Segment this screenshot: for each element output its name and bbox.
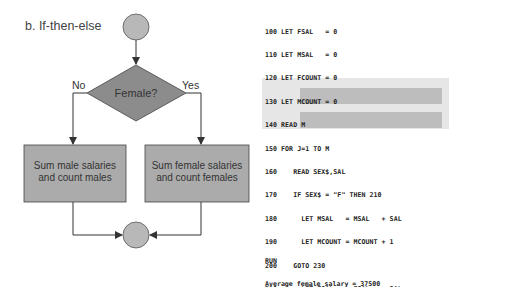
female-box-line1: Sum female salaries bbox=[152, 160, 243, 171]
output-line: RUN bbox=[265, 258, 380, 266]
decision-label: Female? bbox=[115, 87, 158, 99]
male-box-line2: and count males bbox=[38, 172, 111, 183]
female-box-line2: and count females bbox=[156, 172, 238, 183]
code-line: 120 LET FCOUNT = 0 bbox=[265, 75, 454, 83]
code-line: 150 FOR J=1 TO M bbox=[265, 146, 454, 154]
code-line: 140 READ M bbox=[265, 122, 454, 130]
code-line: 180 LET MSAL = MSAL + SAL bbox=[265, 216, 454, 224]
end-connector bbox=[123, 222, 149, 248]
code-line: 160 READ SEX$,SAL bbox=[265, 169, 454, 177]
code-line: 110 LET MSAL = 0 bbox=[265, 52, 454, 60]
flowchart: Female? No Yes Sum male salaries and cou… bbox=[0, 0, 260, 287]
code-line: 170 IF SEX$ = "F" THEN 210 bbox=[265, 192, 454, 200]
program-output: RUN Average female salary = 37500 Averag… bbox=[265, 242, 380, 287]
yes-label: Yes bbox=[182, 79, 199, 91]
output-line: Average female salary = 37500 bbox=[265, 281, 380, 287]
code-line: 130 LET MCOUNT = 0 bbox=[265, 99, 454, 107]
code-line: 100 LET FSAL = 0 bbox=[265, 29, 454, 37]
no-label: No bbox=[72, 79, 86, 91]
male-box-line1: Sum male salaries bbox=[34, 160, 116, 171]
start-connector bbox=[123, 14, 149, 40]
